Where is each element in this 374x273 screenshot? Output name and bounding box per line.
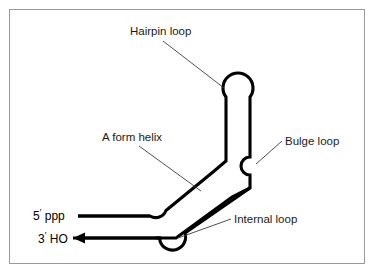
three-prime-terminus-label: 3′ HO [38, 230, 68, 246]
three-prime-group: HO [46, 232, 67, 246]
internal-loop-label: Internal loop [234, 213, 297, 225]
hairpin-loop-leader-line [163, 41, 224, 88]
three-prime-arrowhead [73, 233, 85, 244]
rna-structure-figure: Hairpin loop A form helix Bulge loop Int… [0, 0, 374, 273]
a-form-helix-label: A form helix [102, 131, 162, 143]
rna-diagram-canvas: Hairpin loop A form helix Bulge loop Int… [0, 0, 374, 273]
rna-backbone-left-strand [73, 73, 253, 250]
five-prime-group: ppp [41, 209, 65, 223]
internal-loop-leader-line [178, 219, 231, 238]
rna-chain [73, 73, 253, 250]
hairpin-loop-label: Hairpin loop [130, 25, 191, 37]
five-prime-terminus-label: 5′ ppp [33, 207, 65, 223]
bulge-loop-label: Bulge loop [285, 135, 339, 147]
bulge-loop-leader-line [256, 141, 282, 164]
a-form-helix-leader-line [139, 146, 201, 191]
